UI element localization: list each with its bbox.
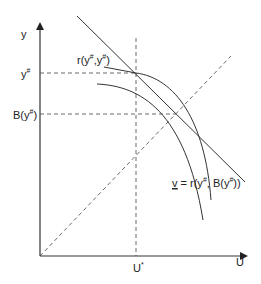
y-axis-label: y bbox=[21, 28, 27, 40]
x-axis-label: U bbox=[236, 256, 244, 268]
u-star-label: U* bbox=[133, 261, 144, 274]
frontier-line bbox=[77, 16, 245, 182]
v-equation-label: v = r(y#, B(y#)) bbox=[172, 176, 241, 189]
diagonal-45-line bbox=[40, 56, 231, 256]
b-y-sharp-label: B(y#) bbox=[13, 108, 37, 121]
r-curve-label: r(y#,y#) bbox=[77, 53, 110, 66]
diagram-canvas: y y# B(y#) r(y#,y#) U* U v = r(y#, B(y#)… bbox=[0, 0, 261, 284]
y-sharp-label: y# bbox=[21, 67, 31, 80]
inner-curve bbox=[97, 84, 203, 220]
